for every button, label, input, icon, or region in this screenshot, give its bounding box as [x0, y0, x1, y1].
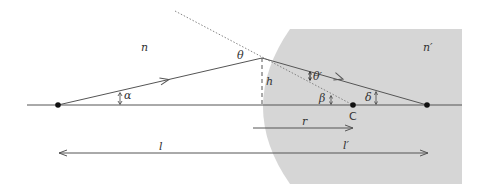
- radius-r-label: r: [302, 116, 307, 127]
- center-point-c: [350, 102, 356, 108]
- theta-label: θ: [237, 50, 244, 61]
- medium-n-prime-label: n′: [423, 42, 433, 53]
- height-h-label: h: [266, 76, 273, 87]
- object-distance-l-label: l: [159, 141, 163, 152]
- incident-ray: [58, 58, 262, 105]
- image-point: [424, 102, 430, 108]
- image-distance-l-prime-label: l′: [343, 140, 349, 151]
- refraction-diagram: [0, 0, 486, 196]
- center-c-label: C: [349, 111, 357, 122]
- beta-label: β: [319, 93, 325, 104]
- medium-n-label: n: [141, 42, 148, 53]
- theta-prime-label: θ′: [313, 71, 322, 82]
- delta-label: δ: [365, 92, 372, 103]
- object-point: [55, 102, 61, 108]
- alpha-label: α: [124, 90, 131, 101]
